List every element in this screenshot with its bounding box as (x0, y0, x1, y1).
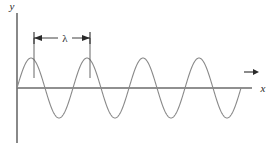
propagation-arrow-head (253, 69, 259, 75)
y-axis-label: y (9, 0, 15, 12)
wavelength-dimension: λ (34, 32, 90, 44)
wave-diagram: y x λ (0, 0, 272, 153)
wavelength-arrowhead-left (34, 35, 42, 41)
wavelength-arrowhead-right (82, 35, 90, 41)
propagation-direction-arrow (244, 69, 259, 75)
wavelength-label: λ (62, 32, 68, 44)
wave-diagram-canvas: y x λ (0, 0, 272, 153)
x-axis-label: x (260, 82, 266, 94)
